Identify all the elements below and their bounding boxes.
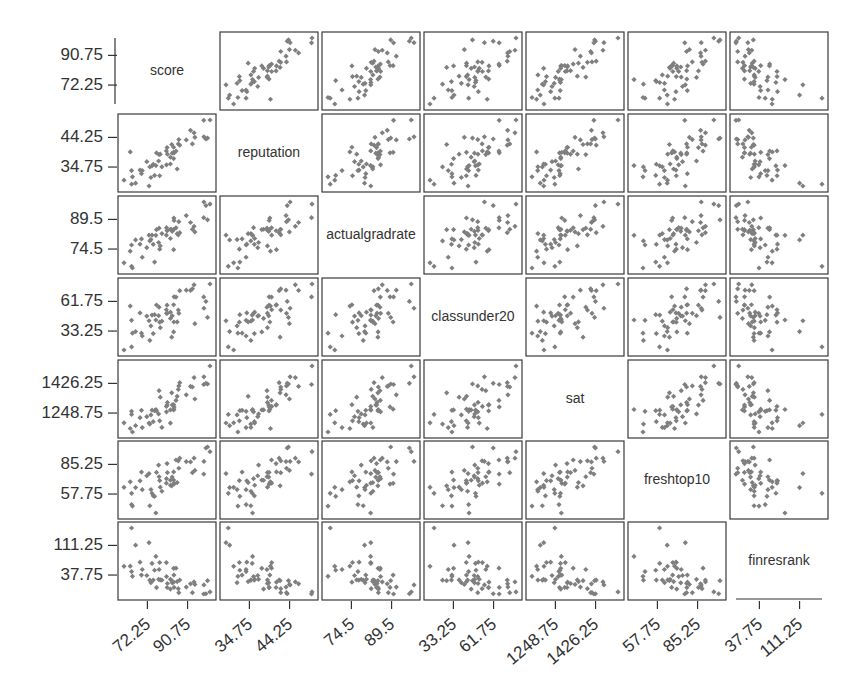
scatter-panel-freshtop10-vs-score xyxy=(118,441,216,519)
scatter-panel-freshtop10-vs-finresrank xyxy=(730,441,828,519)
variable-label-finresrank: finresrank xyxy=(748,552,810,568)
scatter-panel-sat-vs-score xyxy=(118,360,216,438)
scatter-panel-reputation-vs-freshtop10 xyxy=(628,114,726,192)
scatter-panel-freshtop10-vs-reputation xyxy=(220,441,318,519)
y-tick-label: 44.25 xyxy=(60,127,103,146)
x-tick-label: 33.25 xyxy=(415,615,460,657)
variable-label-freshtop10: freshtop10 xyxy=(644,471,710,487)
y-tick-label: 1248.75 xyxy=(42,403,103,422)
y-tick-label: 111.25 xyxy=(54,535,103,554)
scatter-panel-finresrank-vs-classunder20 xyxy=(424,522,522,600)
y-tick-label: 85.25 xyxy=(60,454,103,473)
variable-label-score: score xyxy=(150,62,184,78)
scatter-panel-actualgradrate-vs-classunder20 xyxy=(424,196,522,274)
y-tick-label: 34.75 xyxy=(60,157,103,176)
scatter-panel-sat-vs-actualgradrate xyxy=(322,360,420,438)
scatter-panel-sat-vs-reputation xyxy=(220,360,318,438)
scatter-panel-reputation-vs-actualgradrate xyxy=(322,114,420,192)
x-tick-label: 72.25 xyxy=(109,615,154,657)
y-axis-left: 90.7572.2544.2534.7589.574.561.7533.2514… xyxy=(42,38,117,584)
scatter-panel-score-vs-reputation xyxy=(220,32,318,110)
scatter-panel-reputation-vs-finresrank xyxy=(730,114,828,192)
scatter-panel-finresrank-vs-freshtop10 xyxy=(628,522,726,600)
variable-label-classunder20: classunder20 xyxy=(431,308,514,324)
scatter-panel-freshtop10-vs-actualgradrate xyxy=(322,441,420,519)
x-tick-label: 61.75 xyxy=(455,615,500,657)
x-tick-label: 34.75 xyxy=(211,615,256,657)
scatter-panel-freshtop10-vs-classunder20 xyxy=(424,441,522,519)
x-tick-label: 44.25 xyxy=(251,615,296,657)
scatter-panel-reputation-vs-classunder20 xyxy=(424,114,522,192)
variable-label-actualgradrate: actualgradrate xyxy=(326,226,416,242)
scatterplot-matrix: scorereputationactualgradrateclassunder2… xyxy=(0,0,864,692)
y-tick-label: 1426.25 xyxy=(42,373,103,392)
y-tick-label: 37.75 xyxy=(60,565,103,584)
scatter-panel-actualgradrate-vs-score xyxy=(118,196,216,274)
scatter-panel-reputation-vs-sat xyxy=(526,114,624,192)
x-tick-label: 111.25 xyxy=(756,615,806,661)
scatter-panel-classunder20-vs-freshtop10 xyxy=(628,278,726,356)
scatter-panel-score-vs-sat xyxy=(526,32,624,110)
scatter-panel-classunder20-vs-finresrank xyxy=(730,278,828,356)
y-tick-label: 33.25 xyxy=(60,321,103,340)
y-tick-label: 89.5 xyxy=(70,209,103,228)
scatter-panel-sat-vs-freshtop10 xyxy=(628,360,726,438)
y-tick-label: 90.75 xyxy=(60,45,103,64)
scatter-panel-freshtop10-vs-sat xyxy=(526,441,624,519)
scatter-panel-score-vs-actualgradrate xyxy=(322,32,420,110)
scatter-panel-score-vs-finresrank xyxy=(730,32,828,110)
scatter-panel-score-vs-classunder20 xyxy=(424,32,522,110)
scatter-panel-sat-vs-finresrank xyxy=(730,360,828,438)
scatter-panel-score-vs-freshtop10 xyxy=(628,32,726,110)
y-tick-label: 61.75 xyxy=(60,291,103,310)
x-tick-label: 74.5 xyxy=(320,615,358,651)
scatter-panel-classunder20-vs-sat xyxy=(526,278,624,356)
scatter-panel-finresrank-vs-sat xyxy=(526,522,624,600)
scatter-panel-sat-vs-classunder20 xyxy=(424,360,522,438)
x-tick-label: 90.75 xyxy=(149,615,194,657)
scatter-panel-actualgradrate-vs-freshtop10 xyxy=(628,196,726,274)
variable-label-reputation: reputation xyxy=(238,144,300,160)
y-tick-label: 74.5 xyxy=(70,239,103,258)
scatter-panel-actualgradrate-vs-reputation xyxy=(220,196,318,274)
scatter-panel-classunder20-vs-actualgradrate xyxy=(322,278,420,356)
x-axis-bottom: 72.2590.7534.7544.2574.589.533.2561.7512… xyxy=(109,599,822,669)
scatter-panel-classunder20-vs-reputation xyxy=(220,278,318,356)
y-tick-label: 57.75 xyxy=(60,484,103,503)
variable-label-sat: sat xyxy=(566,390,585,406)
x-tick-label: 89.5 xyxy=(361,615,399,651)
scatter-panel-finresrank-vs-reputation xyxy=(220,522,318,600)
scatter-panel-finresrank-vs-score xyxy=(118,522,216,600)
x-tick-label: 57.75 xyxy=(619,615,664,657)
scatter-panel-classunder20-vs-score xyxy=(118,278,216,356)
y-tick-label: 72.25 xyxy=(60,75,103,94)
x-tick-label: 85.25 xyxy=(659,615,704,657)
scatter-panel-actualgradrate-vs-finresrank xyxy=(730,196,828,274)
scatter-panel-actualgradrate-vs-sat xyxy=(526,196,624,274)
scatter-panel-finresrank-vs-actualgradrate xyxy=(322,522,420,600)
scatter-panel-reputation-vs-score xyxy=(118,114,216,192)
